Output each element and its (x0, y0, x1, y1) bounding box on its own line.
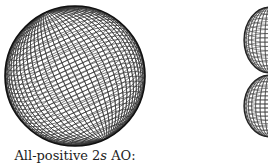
lobe-top (244, 7, 268, 73)
sphere-mesh (0, 0, 168, 168)
lobe-bottom (244, 75, 268, 137)
orbital-figure (0, 0, 268, 168)
figure-caption: All-positive 2s AO: (0, 148, 150, 163)
